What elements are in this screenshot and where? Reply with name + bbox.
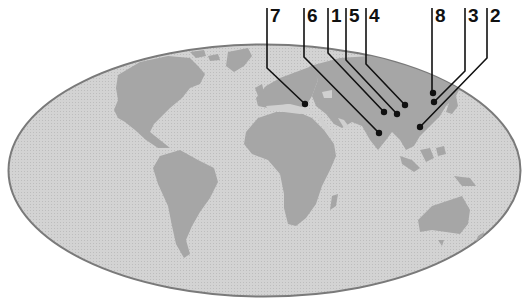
marker-label-8: 8 — [435, 6, 446, 26]
location-dot-7 — [302, 101, 308, 107]
marker-label-6: 6 — [307, 6, 318, 26]
location-dot-5 — [394, 111, 400, 117]
location-dot-1 — [381, 109, 387, 115]
marker-label-5: 5 — [349, 6, 360, 26]
marker-label-3: 3 — [468, 6, 479, 26]
marker-label-4: 4 — [369, 6, 380, 26]
location-dot-6 — [376, 130, 382, 136]
world-map — [0, 0, 527, 299]
marker-label-2: 2 — [490, 6, 501, 26]
location-dot-8 — [430, 90, 436, 96]
location-dot-3 — [431, 99, 437, 105]
marker-label-1: 1 — [331, 6, 342, 26]
marker-label-7: 7 — [270, 6, 281, 26]
location-dot-2 — [417, 124, 423, 130]
location-dot-4 — [402, 102, 408, 108]
